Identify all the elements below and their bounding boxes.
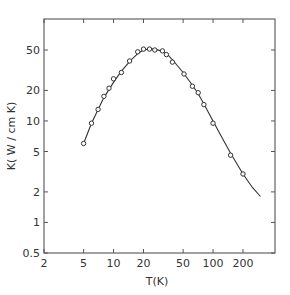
data-point-marker	[141, 47, 145, 51]
plot-border	[44, 19, 275, 253]
plot-frame	[44, 19, 275, 253]
x-tick-label: 2	[41, 257, 48, 270]
data-point-marker	[89, 121, 93, 125]
x-axis-label: T(K)	[145, 275, 169, 288]
data-point-marker	[107, 86, 111, 90]
y-tick-label: 10	[26, 115, 40, 128]
x-tick-label: 100	[203, 257, 224, 270]
y-tick-label: 50	[26, 44, 40, 57]
data-points	[81, 47, 245, 176]
data-point-marker	[160, 49, 164, 53]
data-point-marker	[81, 141, 85, 145]
data-point-marker	[196, 91, 200, 95]
y-axis-ticks: 0.5125102050	[23, 44, 276, 260]
data-point-marker	[228, 153, 232, 157]
y-tick-label: 5	[33, 146, 40, 159]
y-tick-label: 0.5	[23, 247, 41, 260]
y-axis-label: K( W / cm K)	[5, 102, 18, 170]
x-axis-ticks: 25102050100200	[41, 19, 254, 270]
x-tick-label: 200	[233, 257, 254, 270]
theory-curve	[84, 49, 261, 197]
data-point-marker	[102, 94, 106, 98]
x-tick-label: 50	[176, 257, 190, 270]
data-point-marker	[202, 102, 206, 106]
x-tick-label: 5	[80, 257, 87, 270]
y-tick-label: 2	[33, 186, 40, 199]
y-tick-label: 20	[26, 84, 40, 97]
data-point-marker	[182, 72, 186, 76]
y-tick-label: 1	[33, 216, 40, 229]
x-tick-label: 10	[107, 257, 121, 270]
x-tick-label: 20	[137, 257, 151, 270]
data-point-marker	[96, 107, 100, 111]
chart: 25102050100200 0.5125102050 T(K) K( W / …	[0, 0, 290, 295]
data-point-marker	[164, 52, 168, 56]
data-point-marker	[111, 77, 115, 81]
data-point-marker	[127, 59, 131, 63]
data-point-marker	[170, 60, 174, 64]
data-point-marker	[211, 121, 215, 125]
data-point-marker	[119, 70, 123, 74]
data-point-marker	[147, 47, 151, 51]
data-point-marker	[241, 172, 245, 176]
data-point-marker	[136, 50, 140, 54]
data-point-marker	[190, 84, 194, 88]
data-point-marker	[153, 48, 157, 52]
